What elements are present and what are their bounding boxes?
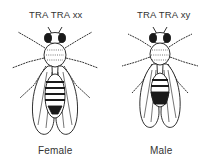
female-fly-illustration [12,27,98,134]
male-fly-illustration [122,27,198,127]
male-caption: Male [150,145,172,156]
fly-illustrations [0,0,210,161]
female-caption: Female [38,145,73,156]
